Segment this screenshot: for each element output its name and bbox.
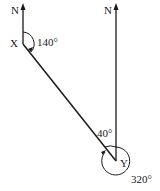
north-label: N [104, 5, 112, 16]
bearing-diagram [0, 0, 160, 191]
north-arrow-icon [21, 3, 26, 10]
bearing-label-x: 140° [37, 37, 58, 48]
angle-label-40: 40° [97, 128, 112, 139]
angle-arc-40 [105, 146, 116, 147]
line-xy [23, 44, 116, 161]
north-label: N [11, 5, 19, 16]
point-label-x: X [10, 38, 18, 49]
bearing-label-y: 320° [131, 174, 152, 185]
point-label-y: Y [120, 158, 128, 169]
north-arrow-icon [114, 3, 119, 10]
